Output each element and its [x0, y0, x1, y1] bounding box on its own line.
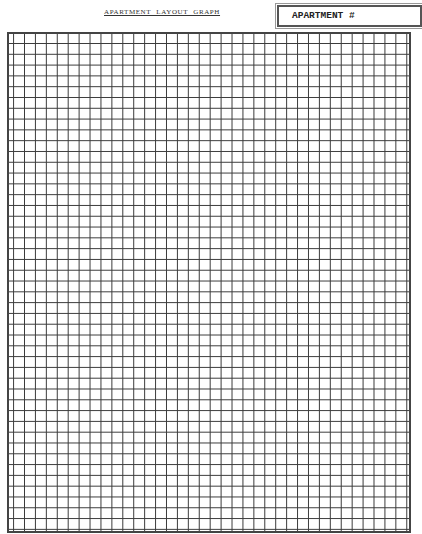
layout-graph-grid [7, 32, 411, 533]
apartment-number-label: APARTMENT # [292, 10, 355, 21]
page-title: APARTMENT LAYOUT GRAPH [104, 8, 220, 16]
apartment-number-field[interactable]: APARTMENT # [277, 5, 422, 27]
